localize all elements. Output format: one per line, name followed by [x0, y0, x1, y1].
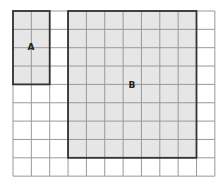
rectangle-a-label: A [28, 42, 35, 52]
grid-diagram: A B [0, 0, 221, 189]
rectangle-b-label: B [129, 80, 136, 90]
